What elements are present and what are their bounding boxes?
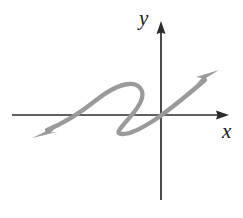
curve-arrowhead-upper-right-icon: [196, 70, 219, 84]
graph-canvas: [0, 0, 243, 218]
math-graph-figure: y x: [0, 0, 243, 218]
y-axis-arrowhead-icon: [157, 21, 166, 34]
x-axis-label: x: [222, 121, 231, 142]
y-axis-label: y: [139, 8, 148, 29]
curve-arrowhead-lower-left-icon: [32, 126, 57, 138]
cubic-squiggle-curve: [47, 80, 205, 134]
